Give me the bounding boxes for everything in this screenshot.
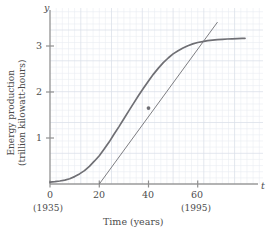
y-axis-title-line1: Energy production <box>6 60 17 166</box>
x-axis-variable-label: t <box>261 180 265 191</box>
grid-major <box>50 8 263 184</box>
x-annotation-1995: (1995) <box>181 203 211 213</box>
y-axis-title-line2: (trillion kilowatt-hours) <box>17 60 28 166</box>
x-annotation-1935: (1935) <box>33 203 63 213</box>
tangent-point-marker <box>147 106 151 110</box>
axes <box>50 10 258 184</box>
x-tick-label-0: 0 <box>47 189 53 200</box>
chart-canvas <box>0 0 273 230</box>
tangent-line <box>99 22 217 184</box>
x-axis-title: Time (years) <box>103 216 164 227</box>
grid-minor <box>50 8 263 184</box>
y-tick-label-3: 3 <box>36 40 42 51</box>
y-axis-variable-label: y <box>44 2 49 13</box>
x-tick-label-40: 40 <box>142 189 154 200</box>
y-tick-label-2: 2 <box>36 86 42 97</box>
y-axis-title: Energy production (trillion kilowatt-hou… <box>6 60 28 166</box>
energy-production-figure: y t 1 2 3 0 20 40 60 (1935) (1995) Time … <box>0 0 273 230</box>
x-tick-label-20: 20 <box>93 189 105 200</box>
x-tick-label-60: 60 <box>191 189 203 200</box>
y-tick-label-1: 1 <box>36 132 42 143</box>
